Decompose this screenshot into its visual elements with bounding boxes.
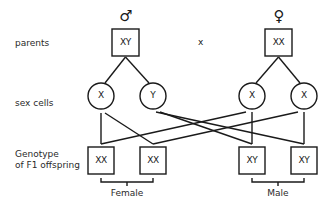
genotype-label-line2: of F1 offspring — [15, 160, 80, 171]
offspring-genotype-1: XX — [88, 155, 114, 165]
offspring-genotype-2: XX — [140, 155, 166, 165]
male-gamete-y: Y — [140, 90, 166, 100]
female-to-x2-line — [279, 57, 301, 83]
male-bracket — [252, 178, 304, 182]
female-to-x1-line — [256, 57, 279, 83]
male-parent-genotype: XY — [112, 37, 139, 47]
offspring-genotype-3: XY — [239, 155, 265, 165]
cross-symbol: x — [198, 37, 203, 47]
female-symbol-icon: ♀ — [269, 9, 289, 24]
male-symbol-icon: ♂ — [116, 9, 136, 24]
female-gamete-x2: X — [291, 90, 317, 100]
genotype-label-line1: Genotype — [15, 149, 59, 160]
male-to-y-line — [126, 57, 150, 83]
female-bracket — [101, 178, 153, 182]
sex-determination-diagram: parents sex cells Genotype of F1 offspri… — [0, 0, 332, 210]
male-group-label: Male — [248, 188, 308, 198]
female-group-label: Female — [97, 188, 157, 198]
female-gamete-x1: X — [239, 90, 265, 100]
sex-cells-label: sex cells — [15, 98, 53, 109]
offspring-genotype-4: XY — [291, 155, 317, 165]
male-gamete-x: X — [88, 90, 114, 100]
female-parent-genotype: XX — [265, 37, 292, 47]
parents-label: parents — [15, 38, 49, 49]
male-to-x-line — [105, 57, 126, 83]
